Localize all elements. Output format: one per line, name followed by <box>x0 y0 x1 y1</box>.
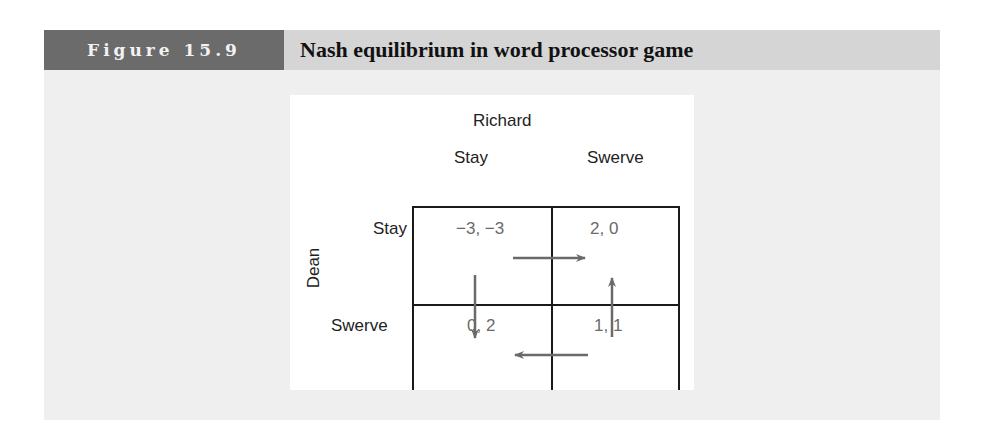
figure-title: Nash equilibrium in word processor game <box>300 30 693 70</box>
payoff-matrix-panel: Richard Stay Swerve Stay Swerve Dean <box>290 95 694 390</box>
figure-box: Figure 15.9 Nash equilibrium in word pro… <box>44 30 940 420</box>
payoff-stay-swerve: 2, 0 <box>590 219 618 239</box>
figure-header: Figure 15.9 Nash equilibrium in word pro… <box>44 30 940 70</box>
payoff-stay-stay: −3, −3 <box>456 219 504 239</box>
payoff-swerve-swerve: 1, 1 <box>594 316 622 336</box>
figure-label: Figure 15.9 <box>44 30 284 70</box>
payoff-swerve-stay: 0, 2 <box>467 316 495 336</box>
matrix-grid <box>290 95 694 390</box>
